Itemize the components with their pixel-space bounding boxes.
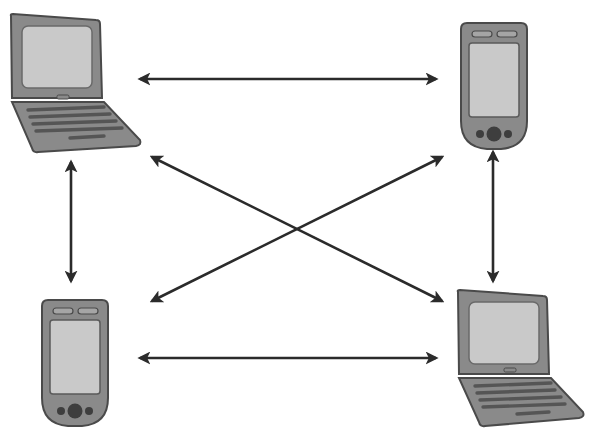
pda-icon	[42, 300, 108, 426]
pda-icon	[461, 23, 527, 149]
connection-arrows	[71, 79, 493, 358]
laptop-icon	[11, 14, 141, 152]
network-diagram	[0, 0, 596, 436]
laptop-icon	[458, 290, 584, 426]
